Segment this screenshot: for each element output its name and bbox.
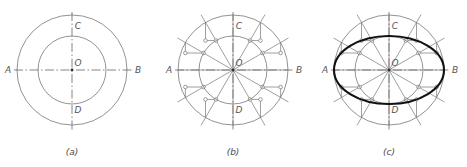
center-point-O	[388, 69, 391, 72]
center-point-O	[71, 69, 74, 72]
axis-label-C: C	[236, 21, 243, 31]
panel-caption-a: (a)	[66, 147, 79, 157]
ellipse-point-120	[204, 39, 208, 43]
center-label-O: O	[74, 58, 81, 68]
axis-label-D: D	[392, 105, 399, 115]
axis-label-B: B	[452, 65, 458, 75]
panel-a: ABCDO(a)	[4, 12, 141, 157]
ellipse-construction-figure: ABCDO(a)ABCDO(b)ABCDO(c)	[0, 0, 467, 167]
axis-label-C: C	[392, 21, 399, 31]
ellipse-point-210	[184, 85, 188, 89]
axis-label-A: A	[4, 65, 11, 75]
center-point-O	[232, 69, 235, 72]
axis-label-A: A	[165, 65, 172, 75]
axis-label-D: D	[75, 105, 82, 115]
axis-label-C: C	[75, 21, 82, 31]
ellipse-point-300	[259, 98, 263, 102]
ellipse-point-30	[279, 51, 283, 55]
figure-root: ABCDO(a)ABCDO(b)ABCDO(c)	[0, 0, 467, 167]
ellipse-point-240	[204, 98, 208, 102]
axis-label-B: B	[135, 65, 141, 75]
ellipse-point-330	[279, 85, 283, 89]
axis-label-D: D	[236, 105, 243, 115]
axis-label-A: A	[321, 65, 328, 75]
panel-c: ABCDO(c)	[321, 12, 458, 157]
ellipse-point-60	[259, 39, 263, 43]
panel-b: ABCDO(b)	[165, 12, 302, 157]
panel-caption-b: (b)	[227, 147, 240, 157]
ellipse-point-150	[184, 51, 188, 55]
center-label-O: O	[235, 58, 242, 68]
panel-caption-c: (c)	[383, 147, 395, 157]
axis-label-B: B	[296, 65, 302, 75]
center-label-O: O	[391, 58, 398, 68]
